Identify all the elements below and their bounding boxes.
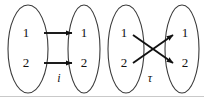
identity-codomain-element-1: 1 bbox=[81, 25, 88, 40]
figure-canvas: 1 2 1 2 i 1 2 1 2 τ bbox=[0, 0, 204, 100]
transposition-codomain-element-2: 2 bbox=[182, 55, 189, 70]
identity-domain-element-1: 1 bbox=[23, 25, 30, 40]
transposition-map-label: τ bbox=[148, 71, 153, 85]
identity-codomain-element-2: 2 bbox=[81, 55, 88, 70]
identity-domain-ellipse bbox=[8, 5, 48, 93]
transposition-domain-element-2: 2 bbox=[121, 55, 128, 70]
transposition-codomain-element-1: 1 bbox=[182, 25, 189, 40]
permutation-diagram-svg: 1 2 1 2 i 1 2 1 2 τ bbox=[0, 0, 204, 100]
diagram-identity-map: 1 2 1 2 i bbox=[8, 5, 100, 93]
transposition-domain-element-1: 1 bbox=[121, 25, 128, 40]
identity-domain-element-2: 2 bbox=[23, 55, 30, 70]
transposition-codomain-ellipse bbox=[165, 5, 199, 93]
transposition-domain-ellipse bbox=[108, 5, 144, 93]
identity-codomain-ellipse bbox=[68, 5, 100, 93]
diagram-transposition-map: 1 2 1 2 τ bbox=[108, 5, 199, 93]
identity-map-label: i bbox=[57, 71, 60, 85]
